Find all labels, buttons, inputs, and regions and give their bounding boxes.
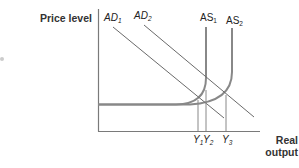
ad-as-diagram: AD1 AD2 AS1 AS2 Y1 Y2 Y3 xyxy=(0,0,299,168)
y2-tick-label: Y2 xyxy=(203,134,214,146)
as1-curve xyxy=(98,27,206,105)
y3-tick-label: Y3 xyxy=(222,134,233,146)
as1-label: AS1 xyxy=(200,12,217,24)
ad2-label: AD2 xyxy=(133,10,152,22)
as2-curve xyxy=(98,28,232,105)
ad1-label: AD1 xyxy=(103,12,122,24)
as2-label: AS2 xyxy=(226,15,243,27)
